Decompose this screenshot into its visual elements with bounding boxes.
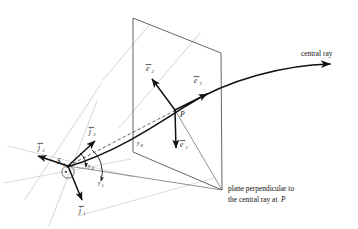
- plane-caption: plane perpendicular to the central ray a…: [228, 184, 294, 204]
- label-e3-symbol: e: [194, 76, 198, 85]
- label-j2: j 2: [37, 143, 45, 153]
- label-j1-symbol: j: [78, 206, 81, 215]
- label-e2-subscript: 2: [151, 69, 154, 74]
- perpendicular-plane: [133, 18, 222, 190]
- label-y0-chord-subscript: 0: [141, 143, 144, 148]
- frame-at-source: [38, 141, 95, 200]
- label-y0-angle: y 0: [87, 163, 95, 171]
- ray-geometry-figure: e 2 e 3 e 1 P S 0 j 3: [0, 0, 358, 229]
- label-e1-subscript: 1: [185, 145, 187, 150]
- label-S-symbol: S: [57, 157, 61, 166]
- label-y0-symbol: y: [87, 163, 91, 169]
- vector-j1-arrow: [68, 166, 82, 200]
- label-e3: e 3: [194, 76, 203, 86]
- label-y1-subscript: 1: [102, 183, 104, 188]
- label-j2-symbol: j: [37, 143, 40, 152]
- label-point-S0: S 0: [57, 157, 65, 167]
- label-e3-subscript: 3: [199, 81, 202, 86]
- label-y1-angle: y 1: [97, 180, 104, 188]
- label-j1-subscript: 1: [83, 211, 85, 216]
- caption-line-2-point: P: [280, 195, 286, 204]
- guide-line: [25, 84, 101, 199]
- source-vertex-dot: [65, 171, 67, 173]
- label-point-P: P: [179, 110, 185, 119]
- vector-e1-arrow: [175, 110, 176, 148]
- label-j3: j 3: [88, 127, 96, 137]
- vector-e3-arrow: [175, 94, 207, 110]
- label-j3-symbol: j: [88, 127, 91, 136]
- label-e1-symbol: e: [180, 140, 184, 149]
- guide-lines-group: [4, 24, 214, 226]
- point-S0-dot: [67, 165, 69, 167]
- construction-lines-group: [68, 110, 222, 190]
- caption-line-2: the central ray at: [228, 195, 278, 204]
- label-e2: e 2: [146, 64, 155, 74]
- label-y0-chord: y 0: [136, 140, 144, 148]
- label-central-ray: central ray: [301, 49, 333, 58]
- label-e1: e 1: [180, 140, 188, 150]
- label-j3-subscript: 3: [93, 132, 96, 137]
- label-j2-subscript: 2: [42, 148, 45, 153]
- point-P-dot: [174, 109, 176, 111]
- construction-line-P-to-base: [175, 110, 222, 190]
- caption-line-1: plane perpendicular to: [228, 184, 294, 193]
- central-ray-curve: [67, 64, 330, 167]
- vector-e2-arrow: [152, 79, 175, 110]
- label-y1-symbol: y: [97, 180, 101, 186]
- label-y0-chord-symbol: y: [136, 140, 140, 146]
- guide-line: [103, 24, 150, 80]
- label-e2-symbol: e: [146, 64, 150, 73]
- diagram-canvas: e 2 e 3 e 1 P S 0 j 3: [0, 0, 358, 229]
